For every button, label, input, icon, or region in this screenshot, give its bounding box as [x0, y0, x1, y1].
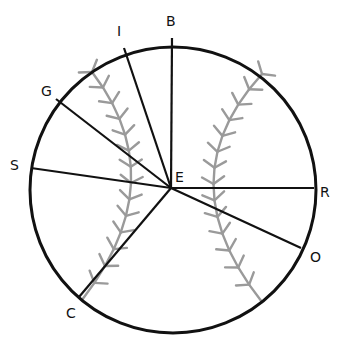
point-label-R: R — [320, 184, 330, 200]
baseball-sector-diagram: BIGSROC E — [0, 0, 345, 347]
point-label-B: B — [166, 13, 176, 29]
point-label-C: C — [66, 305, 76, 321]
point-label-S: S — [10, 157, 19, 173]
point-label-O: O — [310, 249, 321, 265]
radii-lines — [31, 38, 314, 297]
radius-EC — [79, 188, 171, 297]
radius-EB — [171, 38, 172, 188]
point-label-G: G — [41, 83, 52, 99]
center-label-E: E — [175, 169, 184, 185]
point-label-I: I — [117, 23, 121, 39]
